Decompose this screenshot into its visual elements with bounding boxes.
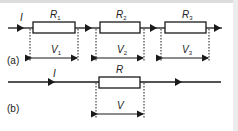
resistor-r1 [33,22,75,33]
resistor-r3 [165,22,206,33]
panel-a-label: (a) [7,55,19,66]
panel-a: I R1 R2 R3 V1 V2 V3 (a) [7,9,222,66]
v2-label: V2 [117,44,128,56]
v1-label: V1 [51,44,62,56]
r2-label: R2 [116,9,127,21]
r-label: R [116,64,123,75]
current-arrow-icon [17,24,24,32]
panel-b: I R V (b) [7,64,221,118]
series-resistors-diagram: I R1 R2 R3 V1 V2 V3 (a) I R V (b) [0,0,238,131]
current-arrow-icon [150,24,157,32]
panel-b-label: (b) [7,103,19,114]
current-arrow-icon [175,78,182,86]
current-arrow-icon [85,24,92,32]
top-border [0,0,238,3]
current-label: I [20,12,23,23]
v-label: V [117,100,125,111]
current-arrow-icon [214,24,221,32]
resistor-r [99,77,140,88]
current-arrow-icon [48,78,55,86]
r3-label: R3 [182,9,193,21]
right-border [233,0,238,131]
v3-label: V3 [182,44,193,56]
current-label: I [53,68,56,79]
r1-label: R1 [50,9,61,21]
resistor-r2 [100,22,140,33]
